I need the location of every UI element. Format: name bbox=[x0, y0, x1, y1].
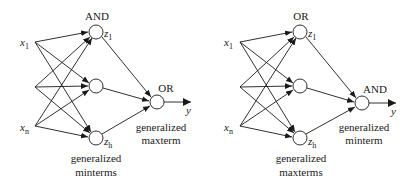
input-label-n: xn bbox=[19, 121, 29, 136]
output-caption-line1: generalized bbox=[339, 121, 390, 133]
right-network: OR AND x1 xn z1 zh y generalized minterm… bbox=[223, 10, 396, 178]
output-node bbox=[150, 95, 164, 109]
hidden-to-output-edges bbox=[306, 37, 356, 134]
output-label: y bbox=[390, 105, 396, 117]
input-to-hidden-edges bbox=[35, 32, 92, 137]
hidden-caption-line1: generalized bbox=[276, 152, 327, 164]
hidden-to-output-edges bbox=[102, 37, 151, 134]
left-network: AND OR x1 xn z1 zh y generalized maxterm… bbox=[19, 10, 191, 178]
hidden-caption-line2: maxterms bbox=[279, 166, 322, 178]
input-to-hidden-edges bbox=[240, 32, 296, 137]
hidden-node-1 bbox=[293, 25, 307, 39]
output-gate-label: OR bbox=[158, 82, 174, 94]
hidden-node-2 bbox=[293, 79, 307, 93]
hidden-label-h: zh bbox=[307, 135, 316, 150]
input-label-n: xn bbox=[223, 121, 233, 136]
hidden-caption-line2: minterms bbox=[75, 166, 117, 178]
hidden-node-h bbox=[293, 131, 307, 145]
output-node bbox=[355, 96, 369, 110]
diagram-canvas: AND OR x1 xn z1 zh y generalized maxterm… bbox=[0, 0, 418, 189]
hidden-gate-label: AND bbox=[85, 10, 109, 22]
output-gate-label: AND bbox=[363, 83, 387, 95]
input-label-1: x1 bbox=[19, 36, 29, 51]
hidden-caption-line1: generalized bbox=[71, 152, 122, 164]
hidden-node-1 bbox=[89, 25, 103, 39]
hidden-label-h: zh bbox=[103, 135, 112, 150]
input-label-1: x1 bbox=[223, 36, 233, 51]
hidden-gate-label: OR bbox=[293, 10, 309, 22]
hidden-node-2 bbox=[89, 79, 103, 93]
output-label: y bbox=[185, 104, 191, 116]
output-caption-line1: generalized bbox=[136, 121, 187, 133]
hidden-node-h bbox=[89, 131, 103, 145]
output-caption-line2: maxterm bbox=[141, 134, 181, 146]
output-caption-line2: minterm bbox=[345, 134, 383, 146]
